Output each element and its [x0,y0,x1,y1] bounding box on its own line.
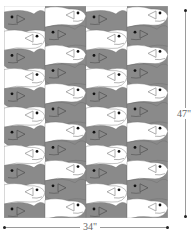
gray-fish [45,102,86,124]
width-dimension-right-dot [166,226,169,229]
gray-fish [4,49,45,71]
quilt-grid [4,6,168,218]
gray-fish [127,179,168,201]
gray-fish [45,141,86,163]
gray-fish [86,87,127,109]
gray-fish [45,179,86,201]
width-label: 34" [80,221,100,232]
gray-fish [86,164,127,186]
gray-fish [127,64,168,86]
gray-fish [4,202,45,218]
gray-fish [127,26,168,48]
height-dimension-bottom-dot [184,215,187,218]
gray-fish [127,141,168,163]
height-dimension-top-dot [184,9,187,12]
gray-fish [86,10,127,32]
gray-fish [4,126,45,148]
gray-fish [4,10,45,32]
height-label: 47" [177,108,191,119]
width-dimension-left-dot [3,226,6,229]
gray-fish [86,202,127,218]
gray-fish [45,26,86,48]
gray-fish [4,87,45,109]
gray-fish [86,126,127,148]
gray-fish [45,64,86,86]
gray-fish [86,49,127,71]
gray-fish [127,102,168,124]
gray-fish [4,164,45,186]
